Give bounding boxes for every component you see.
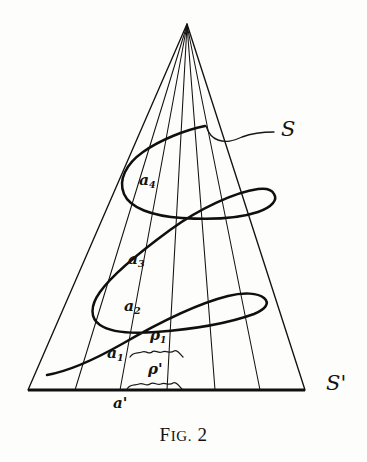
generator-ray-5 [187, 25, 260, 390]
label-a3-subscript: 3 [138, 258, 145, 269]
s-label-leader [206, 126, 274, 141]
rho-prime-brace [127, 383, 182, 389]
figure-caption: FIG. 2 [0, 424, 367, 446]
label-rho-prime: ρ' [148, 362, 163, 377]
caption-number: 2 [197, 424, 207, 445]
label-a1-base: a [107, 343, 117, 362]
figure-container: S S' a4 a3 a2 a1 ρ1 ρ' a' FIG. 2 [0, 0, 367, 462]
label-surface-base: S' [326, 373, 346, 394]
label-a4: a4 [139, 172, 156, 189]
label-rho1-base: ρ [150, 326, 160, 344]
label-a2-base: a [124, 296, 134, 315]
cone-spiral-diagram [0, 0, 367, 462]
label-a4-base: a [139, 170, 149, 189]
label-a-prime: a' [113, 396, 127, 411]
label-rho1-subscript: 1 [160, 334, 166, 345]
rho1-brace [130, 351, 183, 357]
label-a3-base: a [128, 249, 138, 268]
label-a2-subscript: 2 [134, 305, 141, 316]
generator-ray-4 [187, 25, 215, 390]
label-surface-top: S [281, 119, 295, 140]
caption-prefix: F [159, 424, 170, 445]
label-a4-subscript: 4 [149, 179, 156, 190]
label-a1: a1 [107, 345, 124, 362]
label-a2: a2 [124, 298, 141, 315]
label-rho1: ρ1 [150, 328, 166, 344]
label-a3: a3 [128, 251, 145, 268]
caption-smallcaps: IG. [171, 428, 192, 444]
label-a1-subscript: 1 [117, 352, 124, 363]
